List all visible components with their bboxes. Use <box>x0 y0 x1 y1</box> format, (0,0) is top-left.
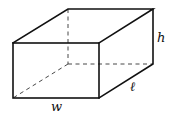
height-label: h <box>157 30 165 45</box>
front-face <box>13 43 99 98</box>
hidden-left-bottom-edge <box>13 64 68 98</box>
top-face <box>13 9 153 43</box>
width-label: w <box>51 99 62 113</box>
length-label: ℓ <box>130 79 136 94</box>
right-face <box>99 9 153 98</box>
rectangular-box-diagram: w ℓ h <box>0 0 170 113</box>
